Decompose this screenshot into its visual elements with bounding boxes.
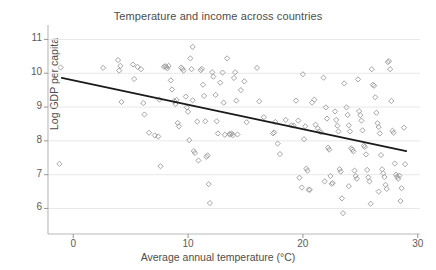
gridlines	[48, 39, 420, 208]
plot-canvas	[0, 0, 436, 270]
regression-line	[62, 78, 406, 151]
scatter-points	[57, 44, 408, 216]
chart-figure: Temperature and income across countries …	[0, 0, 436, 270]
